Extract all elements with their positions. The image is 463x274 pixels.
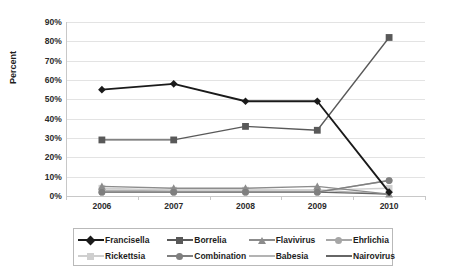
x-axis-tick xyxy=(210,196,211,200)
data-point xyxy=(242,97,250,105)
x-tick-label: 2007 xyxy=(149,201,199,211)
x-axis-tick xyxy=(138,196,139,200)
legend-line xyxy=(249,255,275,257)
legend-row-2: Rickettsia Combination Babesia Nairoviru… xyxy=(78,248,388,264)
ehrlichia-marker-icon xyxy=(326,234,352,246)
x-tick-label: 2008 xyxy=(221,201,271,211)
legend-item-ehrlichia[interactable]: Ehrlichia xyxy=(326,234,388,246)
x-tick-label: 2009 xyxy=(292,201,342,211)
data-point xyxy=(170,80,178,88)
legend-marker xyxy=(335,237,342,244)
data-point xyxy=(99,137,106,144)
legend-label: Combination xyxy=(193,251,246,261)
legend-marker xyxy=(176,237,183,244)
rickettsia-marker-icon xyxy=(78,250,104,262)
legend-item-combination[interactable]: Combination xyxy=(167,250,248,262)
flavivirus-marker-icon xyxy=(249,234,275,246)
data-point xyxy=(242,123,249,130)
legend-item-rickettsia[interactable]: Rickettsia xyxy=(78,250,167,262)
data-point xyxy=(170,137,177,144)
legend: Francisella Borrelia Flavivirus Ehrlichi… xyxy=(73,228,393,266)
babesia-marker-icon xyxy=(249,250,275,262)
legend-label: Nairovirus xyxy=(352,251,395,261)
legend-label: Rickettsia xyxy=(104,251,145,261)
data-point xyxy=(99,189,106,196)
data-point xyxy=(386,177,393,184)
legend-marker xyxy=(258,237,266,244)
legend-label: Flavivirus xyxy=(275,235,316,245)
data-point xyxy=(386,34,393,41)
x-axis-tick xyxy=(281,196,282,200)
combination-marker-icon xyxy=(167,250,193,262)
legend-item-francisella[interactable]: Francisella xyxy=(78,234,167,246)
legend-item-flavivirus[interactable]: Flavivirus xyxy=(249,234,326,246)
legend-marker xyxy=(176,253,183,260)
legend-label: Ehrlichia xyxy=(352,235,389,245)
x-axis-tick xyxy=(353,196,354,200)
legend-item-borrelia[interactable]: Borrelia xyxy=(167,234,248,246)
legend-item-nairovirus[interactable]: Nairovirus xyxy=(326,250,388,262)
data-point xyxy=(98,86,106,94)
legend-label: Babesia xyxy=(275,251,309,261)
series-borrelia xyxy=(99,34,393,143)
x-axis-tick xyxy=(66,196,67,200)
francisella-marker-icon xyxy=(78,234,104,246)
chart-container: Percent 0%10%20%30%40%50%60%70%80%90% 20… xyxy=(0,0,463,274)
legend-marker xyxy=(86,236,96,246)
legend-marker xyxy=(87,253,94,260)
x-tick-label: 2006 xyxy=(77,201,127,211)
legend-line xyxy=(326,255,352,257)
data-point xyxy=(314,127,321,134)
legend-item-babesia[interactable]: Babesia xyxy=(249,250,326,262)
x-tick-label: 2010 xyxy=(364,201,414,211)
legend-label: Borrelia xyxy=(193,235,226,245)
data-point xyxy=(170,189,177,196)
series-francisella xyxy=(98,80,393,196)
legend-row-1: Francisella Borrelia Flavivirus Ehrlichi… xyxy=(78,232,388,248)
data-point xyxy=(314,189,321,196)
nairovirus-marker-icon xyxy=(326,250,352,262)
data-point xyxy=(242,189,249,196)
x-axis-tick xyxy=(425,196,426,200)
legend-label: Francisella xyxy=(104,235,149,245)
borrelia-marker-icon xyxy=(167,234,193,246)
